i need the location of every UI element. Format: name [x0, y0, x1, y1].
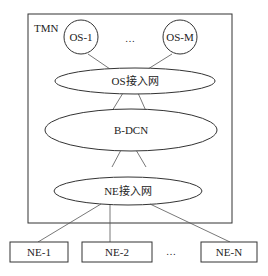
ne-1-label: NE-1: [27, 246, 51, 258]
os-access-network-label: OS接入网: [111, 75, 158, 87]
tmn-diagram: TMN OS-1 … OS-M OS接入网 B-DCN NE接入网 NE-1 N…: [0, 0, 268, 276]
os-m-label: OS-M: [166, 31, 194, 43]
os-ellipsis: …: [125, 33, 135, 44]
connector-bdcn-neaccess-right: [136, 150, 146, 167]
ne-2-label: NE-2: [105, 246, 129, 258]
connector-osaccess-bdcn-left: [112, 93, 123, 111]
ne-access-network-label: NE接入网: [104, 185, 152, 197]
os-1-label: OS-1: [69, 31, 92, 43]
connector-osaccess-bdcn-right: [138, 93, 146, 111]
ne-n-label: NE-N: [216, 246, 242, 258]
tmn-label: TMN: [34, 22, 59, 34]
connector-bdcn-neaccess-left: [112, 150, 121, 167]
connector-osm-osaccess: [148, 54, 172, 69]
ne-ellipsis: …: [166, 246, 176, 257]
connector-os1-osaccess: [88, 54, 110, 69]
bdcn-label: B-DCN: [114, 124, 148, 136]
